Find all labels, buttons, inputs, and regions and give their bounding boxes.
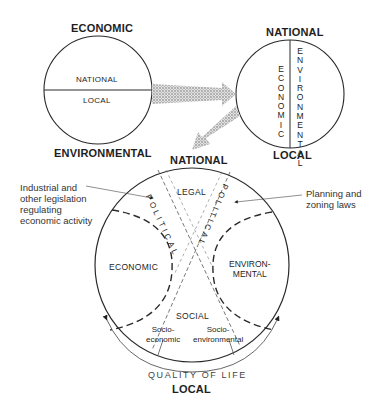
right-circle-top-label: NATIONAL bbox=[266, 26, 324, 38]
arrow-down-left-icon bbox=[192, 106, 240, 150]
main-circle-bottom-label: LOCAL bbox=[172, 383, 211, 395]
annotation-planning-zoning: Planning and zoning laws bbox=[306, 188, 361, 210]
right-circle-right-vertical-label: ENVIRONMENTAL bbox=[295, 47, 305, 168]
socio-environmental-label: Socio- environmental bbox=[193, 325, 243, 345]
left-circle-top-label: ECONOMIC bbox=[71, 22, 133, 34]
left-circle-upper-label: NATIONAL bbox=[76, 75, 118, 84]
socio-economic-label: Socio- economic bbox=[146, 325, 180, 345]
left-circle-bottom-label: ENVIRONMENTAL bbox=[54, 147, 152, 159]
right-circle-left-vertical-label: ECONOMIC bbox=[276, 65, 286, 139]
quality-of-life-label: QUALITY OF LIFE bbox=[148, 370, 247, 380]
left-circle-lower-label: LOCAL bbox=[83, 96, 111, 105]
main-circle-top-label: NATIONAL bbox=[170, 154, 228, 166]
annotation-industrial-legislation: Industrial and other legislation regulat… bbox=[20, 182, 92, 226]
right-circle-bottom-label: LOCAL bbox=[273, 149, 312, 161]
social-region-label: SOCIAL bbox=[176, 311, 209, 321]
economic-region-label: ECONOMIC bbox=[109, 262, 158, 272]
leader-line-right bbox=[236, 195, 302, 202]
environmental-region-label: ENVIRON- MENTAL bbox=[229, 259, 271, 279]
arrow-right-icon bbox=[152, 82, 236, 106]
legal-region-label: LEGAL bbox=[177, 187, 206, 197]
leader-line-left bbox=[86, 186, 152, 198]
circle-left bbox=[44, 36, 152, 144]
circle-right bbox=[236, 40, 344, 148]
quality-of-life-arc bbox=[106, 318, 278, 372]
